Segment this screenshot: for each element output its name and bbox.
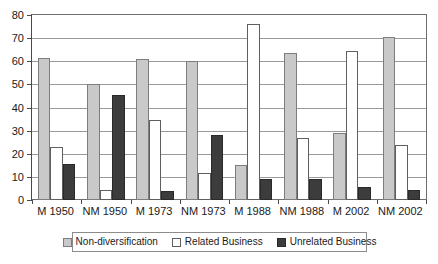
- legend-item[interactable]: Related Business: [172, 237, 263, 247]
- bar-group: [180, 15, 229, 200]
- y-axis-tick-label: 0: [2, 195, 24, 206]
- bar: [211, 135, 224, 200]
- y-axis-tick: [27, 200, 31, 201]
- chart-legend: Non-diversificationRelated BusinessUnrel…: [72, 232, 367, 252]
- x-axis-tick-label: NM 1988: [277, 205, 326, 218]
- bar: [112, 95, 125, 200]
- bar: [235, 165, 248, 200]
- y-axis-tick: [27, 84, 31, 85]
- x-axis-tick: [131, 200, 132, 204]
- legend-swatch-icon: [172, 238, 181, 247]
- bar-group: [32, 15, 81, 200]
- bar: [284, 53, 297, 200]
- bar: [297, 138, 310, 200]
- x-axis-tick-label: M 2002: [327, 205, 376, 218]
- y-axis-tick: [27, 154, 31, 155]
- y-axis-tick-label: 80: [2, 10, 24, 21]
- x-axis-tick: [32, 200, 33, 204]
- bar: [149, 120, 162, 200]
- y-axis-tick: [27, 177, 31, 178]
- x-axis-tick: [278, 200, 279, 204]
- x-axis-tick: [328, 200, 329, 204]
- bar: [136, 59, 149, 200]
- y-axis-tick: [27, 131, 31, 132]
- bar: [346, 51, 359, 200]
- x-axis-tick-label: NM 2002: [376, 205, 425, 218]
- x-axis-tick-label: M 1950: [31, 205, 80, 218]
- x-axis-tick-labels: M 1950NM 1950M 1973NM 1973M 1988NM 1988M…: [31, 205, 427, 221]
- x-axis-tick: [377, 200, 378, 204]
- bar: [100, 190, 113, 200]
- bar-group: [377, 15, 426, 200]
- x-axis-tick: [229, 200, 230, 204]
- x-axis-tick-label: NM 1950: [80, 205, 129, 218]
- bar: [50, 147, 63, 200]
- bar: [408, 190, 421, 200]
- bar: [395, 145, 408, 201]
- bar-group: [81, 15, 130, 200]
- x-axis-tick-label: NM 1973: [179, 205, 228, 218]
- bars-layer: [32, 15, 426, 200]
- bar-group: [328, 15, 377, 200]
- x-axis-tick: [426, 200, 427, 204]
- bar-group: [278, 15, 327, 200]
- y-axis-tick-label: 40: [2, 103, 24, 114]
- y-axis-tick: [27, 108, 31, 109]
- bar: [198, 173, 211, 200]
- y-axis-tick: [27, 38, 31, 39]
- legend-item[interactable]: Non-diversification: [63, 237, 158, 247]
- bar: [38, 58, 51, 200]
- bar: [247, 24, 260, 200]
- y-axis-tick-label: 20: [2, 149, 24, 160]
- x-axis-tick-label: M 1973: [130, 205, 179, 218]
- bar: [87, 84, 100, 200]
- bar: [63, 164, 76, 200]
- bar: [161, 191, 174, 200]
- y-axis-tick: [27, 15, 31, 16]
- chart-title: [0, 0, 438, 3]
- legend-swatch-icon: [63, 238, 72, 247]
- legend-swatch-icon: [277, 238, 286, 247]
- bar: [333, 133, 346, 200]
- legend-item[interactable]: Unrelated Business: [277, 237, 377, 247]
- x-axis-tick: [180, 200, 181, 204]
- bar-group: [229, 15, 278, 200]
- legend-label: Related Business: [185, 237, 263, 247]
- y-axis-tick: [27, 61, 31, 62]
- x-axis-tick: [81, 200, 82, 204]
- legend-label: Unrelated Business: [290, 237, 377, 247]
- y-axis-tick-label: 60: [2, 56, 24, 67]
- y-axis-tick-label: 30: [2, 126, 24, 137]
- x-axis-tick-label: M 1988: [228, 205, 277, 218]
- y-axis-tick-label: 70: [2, 33, 24, 44]
- y-axis-tick-label: 50: [2, 79, 24, 90]
- bar: [383, 37, 396, 200]
- bar-group: [131, 15, 180, 200]
- bar: [260, 179, 273, 200]
- bar: [309, 179, 322, 200]
- bar: [358, 187, 371, 200]
- bar-chart: 01020304050607080 M 1950NM 1950M 1973NM …: [0, 0, 438, 264]
- y-axis-tick-label: 10: [2, 172, 24, 183]
- bar: [186, 61, 199, 200]
- legend-label: Non-diversification: [76, 237, 158, 247]
